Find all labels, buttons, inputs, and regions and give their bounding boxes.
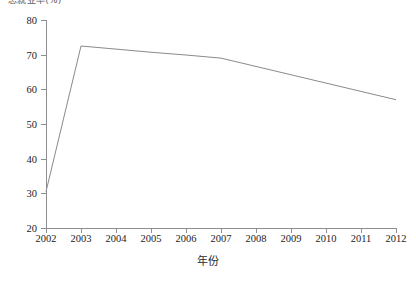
x-tick-label: 2006 (176, 233, 197, 244)
x-tick-label: 2010 (316, 233, 337, 244)
x-tick-label: 2004 (106, 233, 127, 244)
x-axis-title: 年份 (0, 252, 416, 268)
x-tick-label: 2007 (211, 233, 232, 244)
y-tick-label: 80 (27, 15, 38, 26)
line-chart: 总就业率(%) 20304050607080 20022003200420052… (0, 0, 416, 286)
plot-area: 20304050607080 2002200320042005200620072… (46, 20, 396, 228)
x-tick-label: 2003 (71, 233, 92, 244)
x-tick-label: 2005 (141, 233, 162, 244)
y-tick-label: 60 (27, 84, 38, 95)
y-tick-label: 30 (27, 188, 38, 199)
y-tick-label: 40 (27, 153, 38, 164)
y-tick-label: 50 (27, 119, 38, 130)
x-tick-label: 2008 (246, 233, 267, 244)
y-tick-label: 70 (27, 49, 38, 60)
x-tick-label: 2002 (36, 233, 57, 244)
data-series-line (46, 20, 396, 228)
x-tick-label: 2012 (386, 233, 407, 244)
chart-title-truncated: 总就业率(%) (8, 0, 62, 6)
x-tick-label: 2009 (281, 233, 302, 244)
x-tick-label: 2011 (351, 233, 372, 244)
y-tick-label: 20 (27, 223, 38, 234)
